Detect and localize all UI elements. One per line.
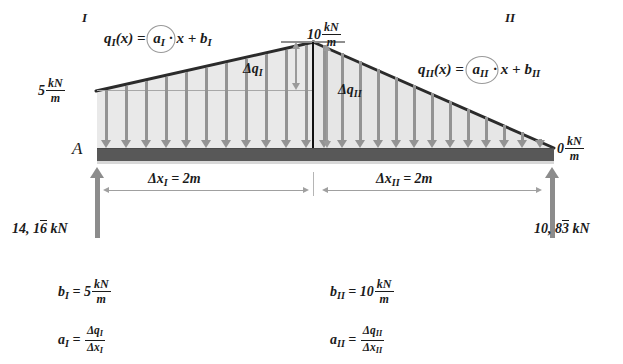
- beam-shadow: [97, 161, 554, 164]
- dimension-label-II: ΔxII = 2m: [376, 172, 433, 188]
- span-I-symbol: Δx: [148, 171, 164, 186]
- load-value-apex-number: 10: [307, 27, 321, 42]
- formula-a-II-den-sub: II: [376, 346, 382, 355]
- dimension-label-I: ΔxI = 2m: [148, 172, 201, 188]
- dimension-arrowhead-left-I: [103, 187, 109, 193]
- load-arrow: [221, 63, 231, 148]
- load-value-apex-unit-numerator: kN: [322, 21, 341, 35]
- load-value-apex-unit-denominator: m: [325, 35, 338, 48]
- delta-q-II-symbol: Δq: [338, 82, 354, 97]
- point-label-A: A: [72, 140, 82, 157]
- formula-b-II: bII = 10 kN m: [330, 279, 395, 306]
- delta-q-I-sub: I: [259, 67, 263, 78]
- formula-a-II-denominator: ΔxII: [361, 341, 384, 356]
- load-arrow: [445, 101, 455, 148]
- load-arrow: [101, 90, 111, 148]
- delta-q-II-label: ΔqII: [338, 83, 362, 99]
- delta-q-I-label: ΔqI: [243, 62, 263, 78]
- load-arrow: [121, 86, 131, 148]
- formula-b-I: bI = 5 kN m: [58, 279, 112, 306]
- load-arrow: [409, 85, 419, 148]
- formula-a-II-num-sub: II: [376, 329, 382, 338]
- reaction-right-unit: kN: [573, 221, 590, 236]
- load-value-apex: 10 kN m: [307, 22, 342, 49]
- reaction-value-left: 14, 16 kN: [12, 222, 68, 236]
- delta-q-I-symbol: Δq: [243, 61, 259, 76]
- load-arrow: [463, 109, 473, 148]
- delta-q-II-arrow: [322, 44, 331, 148]
- dimension-extension-line-apex: [313, 172, 314, 196]
- load-arrow: [373, 69, 383, 148]
- span-II-sub: II: [392, 177, 400, 188]
- span-I-value: = 2m: [171, 171, 200, 186]
- formula-b-I-unit-numerator: kN: [92, 278, 111, 292]
- formula-a-I-denominator: ΔxI: [85, 341, 105, 356]
- formula-b-I-sub: I: [65, 290, 69, 301]
- formula-a-I-num-symbol: Δq: [87, 324, 100, 336]
- formula-b-I-value: 5: [84, 284, 91, 299]
- load-arrow: [427, 93, 437, 148]
- formula-a-II-numerator: ΔqII: [361, 325, 384, 341]
- reaction-left-unit: kN: [51, 221, 68, 236]
- reaction-right-integer: 10, 8: [534, 221, 562, 236]
- dimension-arrowhead-right-II: [536, 187, 542, 193]
- formula-b-II-sub: II: [337, 290, 345, 301]
- span-I-sub: I: [164, 177, 168, 188]
- formula-a-I-lhs: a: [58, 332, 65, 347]
- formula-b-I-unit-denominator: m: [95, 292, 108, 305]
- load-arrow: [181, 72, 191, 148]
- formula-a-II-den-symbol: Δx: [363, 341, 376, 353]
- segment-divider-line: [312, 42, 314, 150]
- formula-a-I-den-sub: I: [100, 346, 103, 355]
- dimension-line-II: [328, 190, 537, 191]
- reaction-arrow-left: [90, 167, 104, 238]
- delta-q-I-arrow: [291, 42, 300, 90]
- formula-a-II-lhs: a: [330, 332, 337, 347]
- load-arrow: [481, 117, 491, 148]
- formula-a-I: aI = ΔqI ΔxI: [58, 326, 106, 356]
- formula-a-I-num-sub: I: [100, 329, 103, 338]
- load-arrow: [355, 61, 365, 148]
- formula-b-I-equals: =: [72, 284, 80, 299]
- formula-b-II-unit-numerator: kN: [375, 278, 394, 292]
- delta-q-II-sub: II: [354, 88, 362, 99]
- load-arrow: [141, 81, 151, 148]
- reaction-value-right: 10, 83 kN: [534, 222, 590, 236]
- beam: [97, 148, 554, 162]
- formula-a-I-numerator: ΔqI: [85, 325, 105, 341]
- load-diagram-page: I II qI(x) = aI · x + bI qII(x) = aII · …: [0, 0, 623, 364]
- formula-a-II-equals: =: [348, 332, 356, 347]
- load-arrow: [535, 139, 545, 148]
- formula-b-II-lhs: b: [330, 284, 337, 299]
- reaction-left-integer: 14, 1: [12, 221, 40, 236]
- formula-a-I-equals: =: [72, 332, 80, 347]
- load-value-right-unit-denominator: m: [568, 149, 581, 162]
- load-arrow: [281, 50, 291, 148]
- formula-a-II-num-symbol: Δq: [363, 324, 376, 336]
- reaction-right-repeating-digit: 3: [562, 221, 569, 236]
- reaction-left-repeating-digit: 6: [40, 221, 47, 236]
- dimension-arrowhead-left-II: [322, 187, 328, 193]
- load-value-right: 0 kN m: [557, 136, 585, 163]
- formula-b-II-unit-denominator: m: [378, 292, 391, 305]
- formula-a-I-den-symbol: Δx: [87, 341, 100, 353]
- load-arrow: [161, 77, 171, 148]
- formula-a-II-sub: II: [337, 338, 345, 349]
- span-II-value: = 2m: [403, 171, 432, 186]
- load-value-right-unit-numerator: kN: [565, 135, 584, 149]
- formula-b-I-lhs: b: [58, 284, 65, 299]
- load-value-left-number: 5: [38, 83, 45, 98]
- load-value-left: 5 kN m: [38, 78, 66, 105]
- load-value-right-number: 0: [557, 141, 564, 156]
- load-arrow: [517, 132, 527, 148]
- formula-a-II: aII = ΔqII ΔxII: [330, 326, 385, 356]
- load-value-left-unit-numerator: kN: [46, 77, 65, 91]
- span-II-symbol: Δx: [376, 171, 392, 186]
- load-arrow: [301, 45, 311, 148]
- load-arrow: [337, 53, 347, 148]
- formula-b-II-value: 10: [360, 284, 374, 299]
- formula-a-I-sub: I: [65, 338, 69, 349]
- load-arrow: [391, 77, 401, 148]
- dimension-arrowhead-right-I: [303, 187, 309, 193]
- dimension-line-I: [108, 190, 305, 191]
